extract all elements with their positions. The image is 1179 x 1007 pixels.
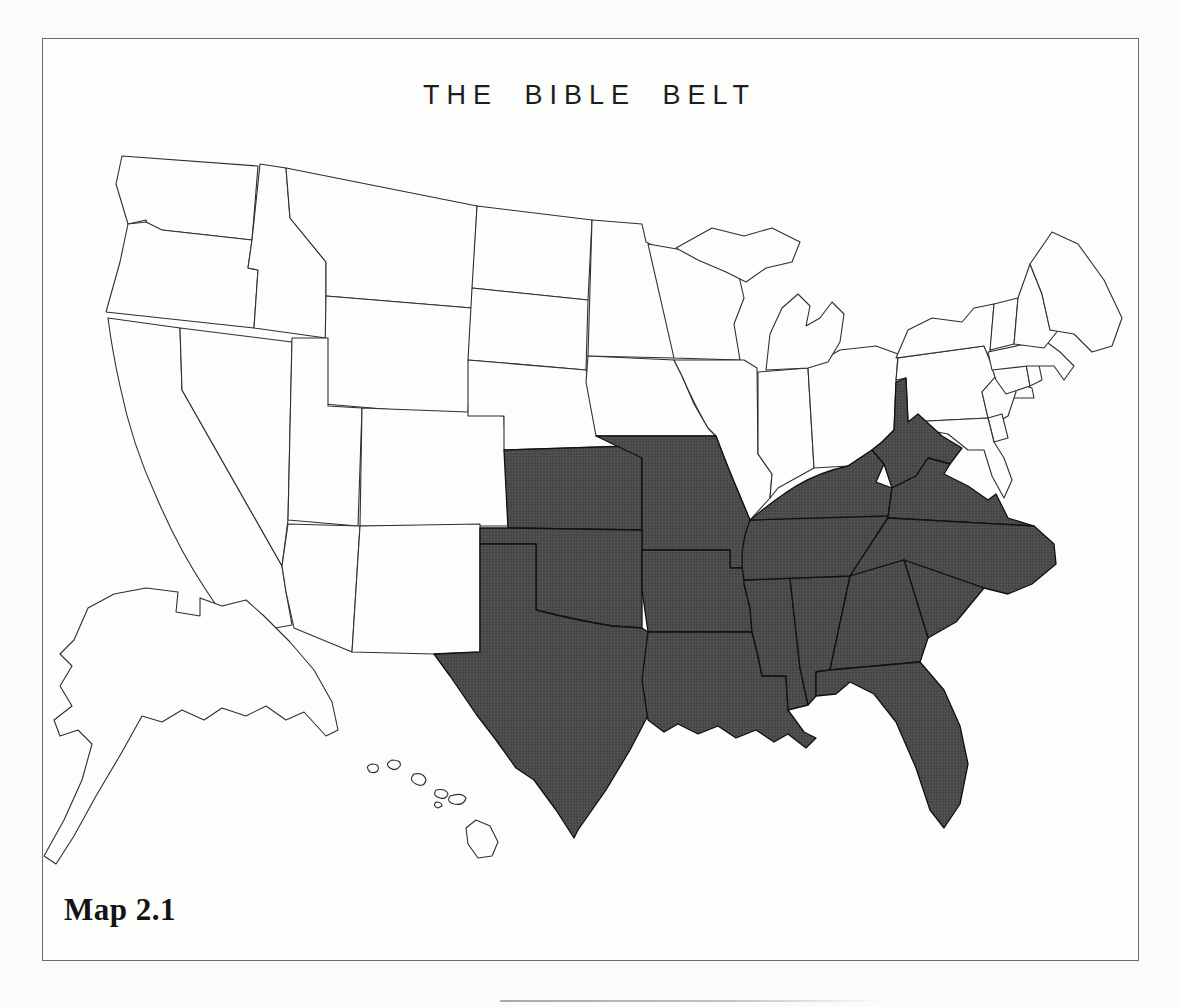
state-hawaii xyxy=(367,760,498,858)
state-wyoming xyxy=(324,296,472,416)
state-south-dakota xyxy=(468,288,588,370)
state-alaska xyxy=(44,588,338,864)
state-arizona xyxy=(282,524,360,652)
state-florida xyxy=(816,662,968,828)
us-map xyxy=(30,120,1140,920)
map-caption: Map 2.1 xyxy=(64,892,176,928)
state-kansas xyxy=(504,446,642,530)
state-oregon xyxy=(106,222,258,328)
state-north-dakota xyxy=(472,206,592,300)
state-new-mexico xyxy=(352,524,480,654)
page-rule-line xyxy=(500,1000,880,1002)
state-pennsylvania xyxy=(896,346,998,422)
map-title: THE BIBLE BELT xyxy=(0,80,1179,111)
state-colorado xyxy=(360,408,508,526)
states-layer xyxy=(44,156,1122,864)
